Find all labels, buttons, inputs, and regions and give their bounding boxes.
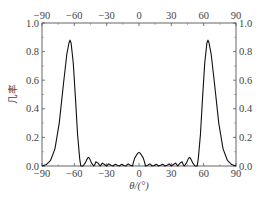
- y-tick-label-left: 1.0: [26, 18, 39, 29]
- y-tick-label-right: 0.4: [239, 103, 253, 114]
- y-tick-label-left: 0.6: [26, 75, 39, 86]
- x-tick-label-bottom: 30: [166, 168, 177, 179]
- y-tick-label-left: 0.2: [26, 132, 39, 143]
- x-tick-label-bottom: 0: [136, 168, 141, 179]
- y-tick-label-left: 0.4: [26, 103, 40, 114]
- y-tick-label-right: 0.6: [239, 75, 252, 86]
- x-tick-label-bottom: −30: [98, 168, 114, 179]
- y-tick-label-right: 1.0: [239, 18, 252, 29]
- x-tick-label-top: 0: [136, 10, 141, 21]
- tick-labels: −90−90−60−60−30−30003030606090900.00.00.…: [26, 10, 253, 179]
- x-axis-title: θ/(°): [129, 180, 149, 192]
- y-tick-label-right: 0.2: [239, 132, 252, 143]
- x-tick-label-top: −60: [66, 10, 82, 21]
- x-tick-label-top: 30: [166, 10, 177, 21]
- y-tick-label-left: 0.0: [26, 161, 39, 172]
- y-tick-label-right: 0.8: [239, 46, 252, 57]
- x-tick-label-top: 60: [198, 10, 209, 21]
- y-tick-label-right: 0.0: [239, 161, 252, 172]
- y-tick-label-left: 0.8: [26, 46, 39, 57]
- probability-curve: [42, 40, 236, 166]
- x-tick-label-bottom: −60: [66, 168, 82, 179]
- y-axis-title: 几率: [7, 84, 18, 104]
- probability-chart: −90−90−60−60−30−30003030606090900.00.00.…: [0, 0, 258, 203]
- x-tick-label-top: −30: [98, 10, 114, 21]
- x-tick-label-bottom: 60: [198, 168, 209, 179]
